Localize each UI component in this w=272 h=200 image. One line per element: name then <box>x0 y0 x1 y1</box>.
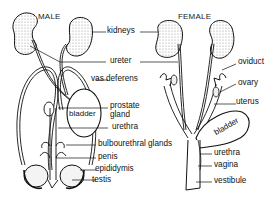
label-urethra-male: urethra <box>112 123 138 131</box>
male-kidney-right <box>66 17 92 56</box>
label-urethra-female: urethra <box>214 149 240 157</box>
label-prostate-gland-1: prostate <box>110 102 140 110</box>
label-kidneys: kidneys <box>107 27 135 35</box>
male-testis-left <box>24 165 48 187</box>
label-prostate-gland-2: gland <box>110 111 130 119</box>
label-bulbourethral-glands: bulbourethral glands <box>98 140 172 148</box>
label-epididymis: epididymis <box>95 165 134 173</box>
label-testis: testis <box>92 176 111 184</box>
female-kidney-right <box>210 21 234 59</box>
label-vestibule: vestibule <box>214 177 246 185</box>
male-testis-right <box>60 165 84 187</box>
label-penis: penis <box>98 153 118 161</box>
female-title: FEMALE <box>178 12 211 21</box>
label-vas-deferens: vas deferens <box>91 75 138 83</box>
label-oviduct: oviduct <box>238 58 264 66</box>
label-bladder-male: bladder <box>69 109 96 118</box>
male-title: MALE <box>38 12 61 21</box>
label-ureter: ureter <box>110 57 131 65</box>
label-ovary: ovary <box>238 79 258 87</box>
diagram-canvas <box>0 0 272 200</box>
label-uterus: uterus <box>236 98 259 106</box>
label-vagina: vagina <box>214 161 238 169</box>
